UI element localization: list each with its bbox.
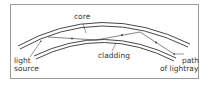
label-core: core [74, 13, 90, 21]
label-light-source-2: source [14, 65, 39, 73]
label-path-2: of lightray [160, 65, 198, 73]
ray-direction-arrows [71, 34, 157, 43]
label-cladding: cladding [98, 52, 130, 60]
fibre-upper-wall [18, 22, 190, 49]
